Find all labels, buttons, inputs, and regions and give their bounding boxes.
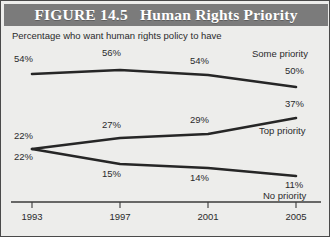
- value-label-some-1997: 56%: [102, 47, 121, 58]
- figure-container: FIGURE 14.5 Human Rights Priority Percen…: [0, 0, 330, 237]
- series-line-top-priority: [32, 118, 296, 149]
- value-label-top-1997: 27%: [102, 119, 121, 130]
- value-label-no-2005: 11%: [285, 179, 303, 190]
- value-label-top-2001: 29%: [190, 114, 209, 125]
- value-label-no-2001: 14%: [190, 172, 209, 183]
- value-label-no-1993: 22%: [14, 151, 33, 162]
- value-label-no-1997: 15%: [102, 168, 121, 179]
- x-axis-label-2001: 2001: [188, 211, 228, 222]
- series-line-no-priority: [32, 149, 296, 176]
- value-label-some-2001: 54%: [190, 55, 209, 66]
- x-axis-label-1993: 1993: [12, 211, 52, 222]
- series-line-some-priority: [32, 70, 296, 87]
- series-label-some-priority: Some priority: [252, 48, 308, 59]
- value-label-top-2005: 37%: [285, 98, 304, 109]
- x-axis-label-2005: 2005: [276, 211, 316, 222]
- line-chart-plot: [1, 1, 330, 237]
- series-label-top-priority: Top priority: [259, 125, 305, 136]
- value-label-top-1993: 22%: [14, 130, 33, 141]
- x-axis-label-1997: 1997: [100, 211, 140, 222]
- value-label-some-2005: 50%: [285, 65, 304, 76]
- value-label-some-1993: 54%: [14, 53, 33, 64]
- series-label-no-priority: No priority: [263, 190, 306, 201]
